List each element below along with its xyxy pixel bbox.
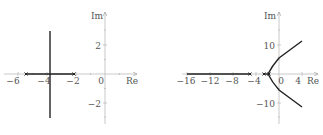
left-re-label: Re <box>126 76 138 86</box>
left-ytick: −2 <box>88 99 101 109</box>
left-xtick: −6 <box>6 76 20 86</box>
right-root-locus: Im Re −16 −12 −8 −4 0 4 10 −10 <box>177 11 320 124</box>
right-xtick: 4 <box>295 76 301 86</box>
left-xtick: −4 <box>37 76 51 86</box>
left-ytick: 2 <box>95 41 101 51</box>
right-ytick: −10 <box>256 99 275 109</box>
left-im-label: Im <box>91 11 104 21</box>
left-xtick: 0 <box>98 76 104 86</box>
right-im-label: Im <box>264 11 277 21</box>
right-re-label: Re <box>307 76 319 86</box>
right-xtick: −16 <box>177 76 196 86</box>
root-locus-figure: Im Re −6 −4 −2 0 2 −2 <box>0 0 323 135</box>
left-xtick: −2 <box>66 76 79 86</box>
right-xtick: −4 <box>247 76 261 86</box>
right-ytick: 10 <box>264 41 276 51</box>
right-xtick: −8 <box>225 76 239 86</box>
right-xtick: −12 <box>201 76 220 86</box>
right-xtick: 0 <box>278 76 284 86</box>
left-root-locus: Im Re −6 −4 −2 0 2 −2 <box>4 11 138 124</box>
